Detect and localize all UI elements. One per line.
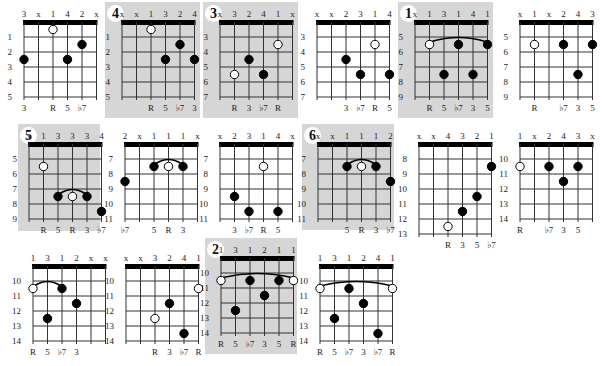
- nut-bar: [124, 142, 199, 147]
- root-note-dot: [371, 40, 379, 48]
- finger-number: 1: [41, 131, 46, 141]
- interval-label: 3: [167, 347, 172, 357]
- muted-string-marker: x: [138, 253, 143, 263]
- fret-number-label: 11: [499, 169, 508, 179]
- finger-number: 3: [163, 9, 168, 19]
- muted-string-marker: x: [316, 131, 321, 141]
- muted-string-marker: x: [431, 131, 436, 141]
- fret-number-label: 5: [8, 92, 13, 102]
- finger-number: 1: [427, 9, 432, 19]
- interval-label: ♭7: [487, 240, 496, 250]
- interval-label: R: [69, 225, 75, 235]
- interval-label: 5: [590, 103, 595, 113]
- interval-label: ♭7: [454, 103, 463, 113]
- fret-number-label: 5: [399, 32, 404, 42]
- finger-dot: [454, 40, 462, 48]
- finger-dot: [179, 162, 187, 170]
- fret-number-label: 13: [12, 321, 22, 331]
- muted-string-marker: x: [532, 131, 537, 141]
- finger-dot: [588, 40, 596, 48]
- interval-label: R: [40, 225, 46, 235]
- finger-number: 3: [576, 131, 581, 141]
- interval-label: ♭7: [374, 347, 383, 357]
- nut-bar: [28, 142, 103, 147]
- interval-label: 5: [475, 240, 480, 250]
- finger-dot: [161, 55, 169, 63]
- fret-number-label: 13: [200, 313, 210, 323]
- finger-dot: [63, 55, 71, 63]
- fret-number-label: 14: [499, 214, 509, 224]
- fret-number-label: 7: [302, 154, 307, 164]
- fret-number-label: 6: [399, 47, 404, 57]
- finger-number: 2: [475, 131, 480, 141]
- interval-label: 3: [471, 103, 476, 113]
- finger-number: 1: [345, 131, 350, 141]
- fretboard-grid: x2314x78910113♭7R5: [205, 124, 295, 230]
- fret-number-label: 5: [106, 92, 111, 102]
- finger-number: 2: [232, 131, 237, 141]
- fret-number-label: 2: [8, 47, 13, 57]
- interval-label: 5: [45, 347, 50, 357]
- finger-number: 2: [547, 131, 552, 141]
- fret-number-label: 10: [499, 154, 509, 164]
- finger-number: 1: [489, 131, 494, 141]
- root-note-dot: [425, 40, 433, 48]
- finger-number: 2: [167, 253, 172, 263]
- fret-number-label: 13: [105, 321, 115, 331]
- finger-number: 3: [56, 131, 61, 141]
- finger-dot: [58, 284, 66, 292]
- finger-number: 3: [45, 253, 50, 263]
- root-note-dot: [357, 162, 365, 170]
- fret-number-label: 12: [299, 306, 308, 316]
- root-note-dot: [516, 162, 524, 170]
- finger-number: 3: [358, 9, 363, 19]
- finger-dot: [20, 55, 28, 63]
- finger-number: 3: [332, 253, 337, 263]
- finger-dot: [54, 192, 62, 200]
- finger-dot: [78, 40, 86, 48]
- interval-label: 5: [277, 339, 282, 349]
- finger-number: 3: [232, 9, 237, 19]
- fret-number-label: 7: [109, 154, 114, 164]
- interval-label: R: [218, 339, 224, 349]
- fretboard-grid: x3241x34567R3♭7R: [203, 2, 298, 118]
- chord-diagram: xx32411011121314R3♭7R: [110, 246, 202, 354]
- interval-label: ♭7: [559, 103, 568, 113]
- finger-number: 4: [261, 9, 266, 19]
- finger-dot: [559, 177, 567, 185]
- finger-dot: [190, 55, 198, 63]
- finger-dot: [359, 299, 367, 307]
- chord-diagram: 3x142x123453R5♭7: [4, 2, 104, 114]
- finger-number: 1: [181, 131, 186, 141]
- fret-number-label: 8: [13, 199, 18, 209]
- nut-bar: [121, 20, 196, 25]
- finger-number: 1: [51, 9, 56, 19]
- fretboard-grid: xx43218910111213R35♭7: [400, 124, 498, 240]
- muted-string-marker: x: [329, 9, 334, 19]
- root-note-dot: [530, 40, 538, 48]
- root-note-dot: [230, 70, 238, 78]
- fret-number-label: 5: [13, 154, 18, 164]
- interval-label: ♭7: [345, 347, 354, 357]
- fret-number-label: 10: [297, 199, 307, 209]
- fret-number-label: 11: [200, 283, 209, 293]
- interval-label: 5: [163, 103, 168, 113]
- interval-label: 3: [192, 103, 197, 113]
- fret-number-label: 14: [12, 336, 22, 346]
- finger-dot: [176, 40, 184, 48]
- muted-string-marker: x: [417, 131, 422, 141]
- muted-string-marker: x: [137, 131, 142, 141]
- root-note-dot: [39, 162, 47, 170]
- root-note-dot: [388, 284, 396, 292]
- fret-number-label: 9: [302, 184, 307, 194]
- root-note-dot: [259, 162, 267, 170]
- interval-label: 3: [576, 103, 581, 113]
- fret-number-label: 9: [403, 169, 408, 179]
- root-note-dot: [444, 222, 452, 230]
- interval-label: ♭7: [58, 347, 67, 357]
- muted-string-marker: x: [120, 9, 125, 19]
- interval-label: 3: [74, 347, 79, 357]
- fretboard-grid: xx32411011121314R3♭7R: [110, 246, 202, 354]
- finger-number: 1: [359, 131, 364, 141]
- fret-number-label: 10: [200, 268, 210, 278]
